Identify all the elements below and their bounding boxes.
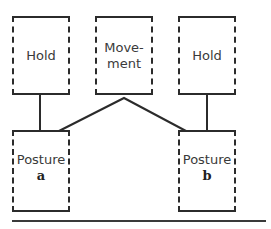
- movement-box: Move- ment: [95, 16, 153, 95]
- posture-id-a: a: [37, 168, 45, 184]
- movement-label-line1: Move-: [104, 40, 144, 56]
- posture-label: Posture: [17, 152, 66, 168]
- posture-b-box: Posture b: [178, 130, 236, 212]
- posture-a-box: Posture a: [12, 130, 70, 212]
- hold-box-left: Hold: [12, 16, 70, 95]
- hold-label: Hold: [26, 48, 56, 64]
- posture-id-b: b: [202, 168, 211, 184]
- movement-label-line2: ment: [107, 56, 141, 72]
- connector-movement-postures: [59, 98, 186, 131]
- hold-label: Hold: [192, 48, 222, 64]
- diagram-canvas: Hold Move- ment Hold Posture a Posture b: [0, 0, 271, 229]
- posture-label: Posture: [183, 152, 232, 168]
- hold-box-right: Hold: [178, 16, 236, 95]
